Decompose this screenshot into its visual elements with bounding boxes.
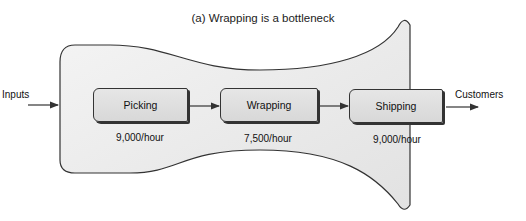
rate-picking: 9,000/hour bbox=[90, 132, 190, 143]
stage-shipping: Shipping bbox=[349, 89, 443, 123]
stage-wrapping: Wrapping bbox=[220, 88, 318, 122]
diagram-title: (a) Wrapping is a bottleneck bbox=[0, 12, 526, 24]
rate-shipping: 9,000/hour bbox=[347, 134, 447, 145]
stage-picking: Picking bbox=[93, 88, 188, 122]
bottleneck-diagram: (a) Wrapping is a bottleneck Inputs Cust… bbox=[0, 0, 526, 221]
inputs-label: Inputs bbox=[2, 89, 29, 100]
customers-label: Customers bbox=[455, 89, 503, 100]
rate-wrapping: 7,500/hour bbox=[218, 133, 318, 144]
